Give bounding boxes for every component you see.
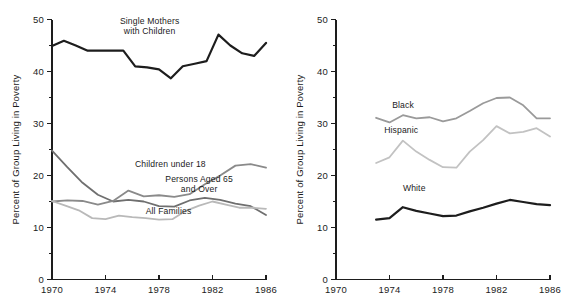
y-tick-label: 40: [33, 66, 44, 77]
y-axis-title: Percent of Group Living in Poverty: [294, 75, 305, 225]
series-label-line: and Over: [181, 184, 218, 194]
x-tick-label: 1970: [41, 284, 63, 295]
series-label-3: All Families: [146, 206, 192, 216]
axis-spine: [336, 20, 550, 280]
series-label-line: Single Mothers: [120, 16, 179, 26]
y-tick-label: 20: [317, 170, 328, 181]
series-line-0: [52, 35, 266, 79]
x-tick-label: 1974: [379, 284, 401, 295]
series-label-2: Children under 18: [135, 159, 206, 169]
series-label-1: Hispanic: [384, 125, 419, 135]
x-tick-label: 1974: [95, 284, 117, 295]
chart-panel-right: 0102030405019701974197819821986Percent o…: [284, 0, 568, 301]
series-label-line: Black: [392, 100, 414, 110]
y-tick-label: 40: [317, 66, 328, 77]
chart-panel-left: 0102030405019701974197819821986Percent o…: [0, 0, 284, 301]
series-label-line: with Children: [123, 26, 176, 36]
y-tick-label: 50: [33, 14, 44, 25]
x-tick-label: 1978: [148, 284, 170, 295]
series-label-line: Children under 18: [135, 159, 206, 169]
series-label-2: White: [403, 183, 426, 193]
series-label-1: Persons Aged 65and Over: [165, 174, 233, 195]
x-tick-label: 1982: [202, 284, 224, 295]
series-label-line: Persons Aged 65: [165, 174, 233, 184]
series-label-line: White: [403, 183, 426, 193]
y-tick-label: 30: [317, 118, 328, 129]
x-tick-label: 1970: [325, 284, 347, 295]
y-tick-label: 50: [317, 14, 328, 25]
series-label-0: Single Motherswith Children: [120, 16, 179, 37]
y-tick-label: 20: [33, 170, 44, 181]
series-line-2: [376, 200, 550, 220]
poverty-rate-figure: 0102030405019701974197819821986Percent o…: [0, 0, 568, 301]
axis-spine: [52, 20, 266, 280]
left-chart-svg: 0102030405019701974197819821986Percent o…: [0, 0, 284, 301]
y-tick-label: 10: [317, 222, 328, 233]
series-label-0: Black: [392, 100, 414, 110]
right-chart-svg: 0102030405019701974197819821986Percent o…: [284, 0, 568, 301]
x-tick-label: 1986: [255, 284, 277, 295]
y-axis-title: Percent of Group Living in Poverty: [10, 75, 21, 225]
series-label-line: All Families: [146, 206, 192, 216]
y-tick-label: 30: [33, 118, 44, 129]
x-tick-label: 1986: [539, 284, 561, 295]
y-tick-label: 10: [33, 222, 44, 233]
x-tick-label: 1978: [432, 284, 454, 295]
series-label-line: Hispanic: [384, 125, 419, 135]
x-tick-label: 1982: [486, 284, 508, 295]
